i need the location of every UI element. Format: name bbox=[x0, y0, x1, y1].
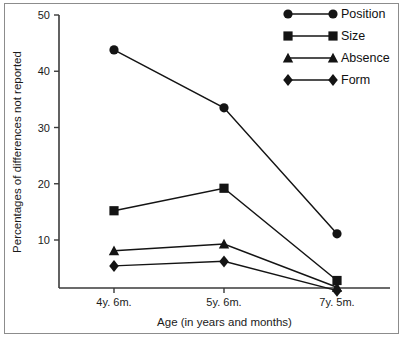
legend-label-position: Position bbox=[341, 7, 386, 21]
legend-item-absence[interactable]: Absence bbox=[283, 51, 390, 65]
marker-form-0 bbox=[109, 260, 119, 272]
marker-position-0 bbox=[109, 45, 118, 54]
x-tick-label-2: 7y. 5m. bbox=[319, 296, 354, 308]
series-line-position bbox=[114, 50, 337, 234]
marker-position-1 bbox=[219, 103, 228, 112]
x-tick-label-0: 4y. 6m. bbox=[96, 296, 131, 308]
series-line-form bbox=[114, 261, 337, 290]
series-position bbox=[109, 45, 341, 238]
chart-legend: PositionSizeAbsenceForm bbox=[283, 7, 390, 87]
x-axis-ticks: 4y. 6m.5y. 6m.7y. 5m. bbox=[96, 288, 354, 308]
legend-item-position[interactable]: Position bbox=[283, 7, 385, 21]
legend-label-size: Size bbox=[341, 29, 365, 43]
legend-marker-size-0 bbox=[283, 31, 292, 40]
legend-marker-position-0 bbox=[283, 9, 292, 18]
legend-label-form: Form bbox=[341, 73, 370, 87]
y-tick-label-50: 50 bbox=[38, 9, 50, 21]
y-tick-label-30: 30 bbox=[38, 122, 50, 134]
x-axis-title: Age (in years and months) bbox=[157, 316, 292, 328]
legend-item-size[interactable]: Size bbox=[283, 29, 365, 43]
y-tick-label-10: 10 bbox=[38, 234, 50, 246]
x-tick-label-1: 5y. 6m. bbox=[206, 296, 241, 308]
legend-marker-position-1 bbox=[328, 9, 337, 18]
legend-item-form[interactable]: Form bbox=[283, 73, 370, 87]
series-line-absence bbox=[114, 244, 337, 287]
y-axis-title: Percentages of differences not reported bbox=[11, 51, 23, 253]
series-size bbox=[109, 184, 341, 285]
legend-label-absence: Absence bbox=[341, 51, 390, 65]
y-axis-ticks: 1020304050 bbox=[38, 9, 59, 246]
series-line-size bbox=[114, 188, 337, 280]
y-tick-label-20: 20 bbox=[38, 178, 50, 190]
y-tick-label-40: 40 bbox=[38, 65, 50, 77]
legend-marker-form-1 bbox=[328, 74, 338, 86]
chart-figure: 1020304050 4y. 6m.5y. 6m.7y. 5m. Positio… bbox=[0, 0, 403, 340]
legend-marker-size-1 bbox=[328, 31, 337, 40]
data-series-group bbox=[109, 45, 342, 296]
marker-form-1 bbox=[219, 255, 229, 267]
marker-position-2 bbox=[332, 229, 341, 238]
legend-marker-form-0 bbox=[283, 74, 293, 86]
marker-size-0 bbox=[109, 206, 118, 215]
line-chart: 1020304050 4y. 6m.5y. 6m.7y. 5m. Positio… bbox=[0, 0, 403, 340]
marker-size-1 bbox=[219, 184, 228, 193]
